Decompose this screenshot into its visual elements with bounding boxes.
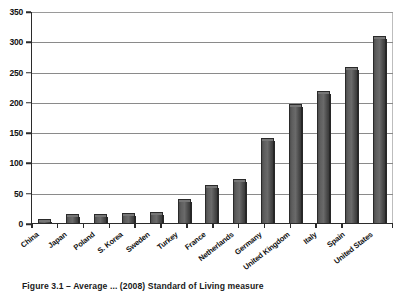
bar-slot <box>226 12 254 224</box>
y-tick-label: 100 <box>9 158 23 168</box>
plot-area <box>31 12 393 224</box>
bar-slot <box>31 12 59 224</box>
bar-slot <box>254 12 282 224</box>
bar <box>289 104 302 224</box>
bar <box>94 214 107 224</box>
bar <box>317 91 330 224</box>
y-tick-label: 150 <box>9 128 23 138</box>
bar <box>345 67 358 224</box>
bars-series <box>31 12 393 224</box>
y-tick-label: 200 <box>9 98 23 108</box>
x-label-slot: United States <box>365 228 393 284</box>
bar-slot <box>142 12 170 224</box>
bar-slot <box>282 12 310 224</box>
figure-caption: Figure 3.1 – Average ... (2008) Standard… <box>22 281 392 291</box>
bar <box>261 138 274 224</box>
bar-slot <box>87 12 115 224</box>
y-tick-label: 350 <box>9 7 23 17</box>
bar-slot <box>365 12 393 224</box>
bar-slot <box>59 12 87 224</box>
bar <box>122 213 135 224</box>
y-tick-label: 0 <box>18 219 23 229</box>
bar-slot <box>309 12 337 224</box>
bar-slot <box>170 12 198 224</box>
bar <box>205 185 218 224</box>
y-tick-label: 50 <box>14 189 23 199</box>
bar <box>233 179 246 224</box>
y-tick-label: 300 <box>9 37 23 47</box>
bar <box>150 212 163 224</box>
bar-slot <box>337 12 365 224</box>
bar-slot <box>198 12 226 224</box>
y-tick-label: 250 <box>9 68 23 78</box>
bar <box>178 199 191 224</box>
bar <box>66 214 79 224</box>
bar <box>373 36 386 224</box>
bar-slot <box>115 12 143 224</box>
x-axis-labels: ChinaJapanPolandS. KoreaSwedenTurkeyFran… <box>31 228 393 284</box>
